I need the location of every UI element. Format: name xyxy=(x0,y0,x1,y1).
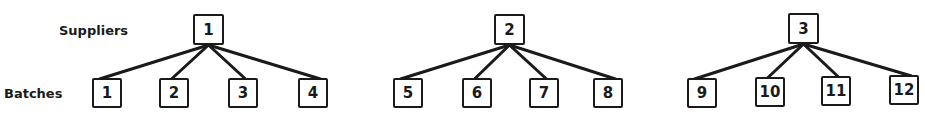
suppliers-row-label: Suppliers xyxy=(59,23,128,38)
batch-node: 5 xyxy=(393,78,423,108)
supplier-node: 1 xyxy=(193,14,224,45)
supplier-batch-edge xyxy=(510,45,616,79)
batch-node: 12 xyxy=(889,75,919,105)
batch-node: 11 xyxy=(821,76,851,106)
batch-node: 7 xyxy=(529,78,559,108)
supplier-batch-hierarchy-diagram: Suppliers Batches 1 2 3 1 2 3 4 5 6 7 8 … xyxy=(0,0,925,124)
batch-node: 10 xyxy=(755,77,785,107)
supplier-node: 2 xyxy=(494,14,525,45)
batch-node: 1 xyxy=(92,78,122,108)
supplier-node: 3 xyxy=(788,13,819,44)
batch-node: 2 xyxy=(159,78,189,108)
batches-row-label: Batches xyxy=(4,86,62,101)
batch-node: 3 xyxy=(228,78,258,108)
batch-node: 6 xyxy=(462,78,492,108)
batch-node: 4 xyxy=(298,78,328,108)
batch-node: 8 xyxy=(593,78,623,108)
batch-node: 9 xyxy=(687,78,717,108)
